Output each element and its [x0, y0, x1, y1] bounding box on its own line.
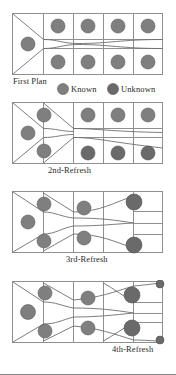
node-known: [81, 291, 95, 305]
panel-4th-refresh-caption: 4th-Refresh: [112, 344, 153, 354]
panel-2nd-refresh: 2nd-Refresh: [0, 101, 176, 179]
node-unknown: [111, 146, 125, 160]
node-unknown: [126, 237, 142, 253]
node-known: [51, 19, 65, 33]
node-known: [21, 37, 35, 51]
panel-first-plan-graphic: [0, 12, 176, 80]
refresh-plan-figure: First Plan Known Unknown: [0, 0, 176, 375]
node-unknown: [126, 194, 142, 210]
node-unknown: [141, 146, 155, 160]
node-known: [81, 108, 95, 122]
node-known: [37, 197, 51, 211]
legend-unknown-icon: [108, 84, 119, 95]
node-known: [111, 108, 125, 122]
node-known: [111, 19, 125, 33]
node-known: [21, 305, 36, 320]
legend-label-unknown: Unknown: [121, 84, 155, 94]
node-known: [81, 321, 95, 335]
node-known: [37, 144, 51, 158]
node-unknown: [156, 336, 164, 344]
node-known: [37, 234, 51, 248]
node-known: [141, 108, 155, 122]
panel-first-plan: First Plan: [0, 12, 176, 80]
legend-known-icon: [58, 84, 69, 95]
node-known: [38, 324, 52, 338]
node-known: [21, 215, 35, 229]
node-unknown: [81, 146, 95, 160]
panel-2nd-refresh-caption: 2nd-Refresh: [48, 165, 91, 175]
node-known: [81, 19, 95, 33]
node-known: [77, 231, 91, 245]
node-known: [51, 55, 65, 69]
node-known: [111, 55, 125, 69]
node-known: [38, 286, 52, 300]
node-known: [81, 55, 95, 69]
node-unknown: [156, 280, 164, 288]
node-known: [141, 55, 155, 69]
panel-3rd-refresh: 3rd-Refresh: [0, 190, 176, 268]
node-known: [124, 320, 140, 336]
node-known: [21, 126, 35, 140]
panel-4th-refresh: 4th-Refresh: [0, 280, 176, 362]
node-known: [77, 201, 91, 215]
node-known: [37, 108, 51, 122]
legend-label-known: Known: [71, 84, 97, 94]
node-known: [141, 19, 155, 33]
legend: Known Unknown: [0, 82, 176, 96]
panel-3rd-refresh-caption: 3rd-Refresh: [66, 254, 108, 264]
node-known: [124, 287, 140, 303]
